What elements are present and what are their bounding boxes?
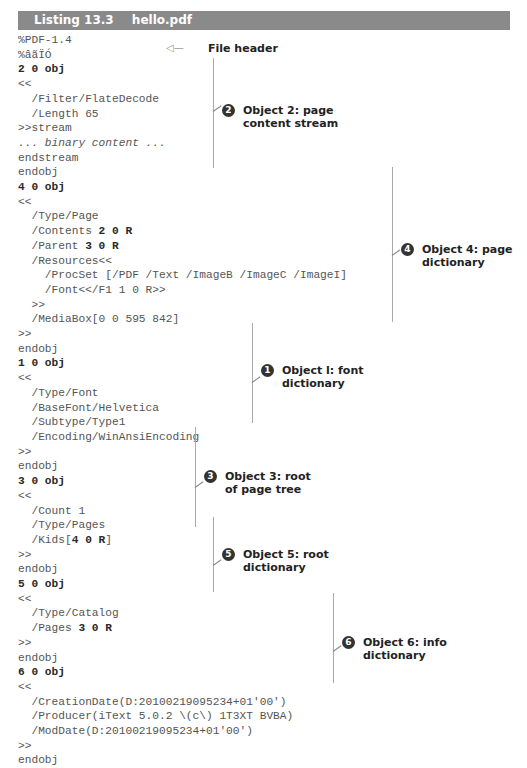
listing-filename: hello.pdf	[132, 13, 192, 27]
code-line: %âãÏÓ	[18, 49, 52, 61]
listing-header: Listing 13.3 hello.pdf	[18, 11, 510, 30]
code-line: 2 0 obj	[18, 63, 65, 75]
code-reference: 4 0 R	[72, 534, 106, 546]
code-line: /BaseFont/Helvetica	[18, 402, 159, 414]
number-badge-1: 1	[261, 364, 274, 377]
code-line: endobj	[18, 652, 58, 664]
code-line: >>	[18, 740, 31, 752]
code-line: >>	[18, 446, 31, 458]
code-line: endobj	[18, 754, 58, 766]
code-line: /ModDate(D:20100219095234+01'00')	[18, 725, 253, 737]
callout-obj1: 1 Object l: font dictionary	[261, 364, 364, 390]
code-line: 4 0 obj	[18, 181, 65, 193]
code-line: /Filter/FlateDecode	[18, 93, 159, 105]
bracket-line-obj5	[213, 517, 214, 592]
code-line: <<	[18, 196, 31, 208]
code-line: <<	[18, 490, 31, 502]
code-line: /Length 65	[18, 108, 99, 120]
number-badge-2: 2	[222, 104, 235, 117]
callout-obj3: 3 Object 3: root of page tree	[204, 470, 311, 496]
code-line: 6 0 obj	[18, 666, 65, 678]
code-line: /Type/Page	[18, 210, 99, 222]
callout-obj5: 5 Object 5: root dictionary	[222, 548, 329, 574]
bracket-line-obj3	[195, 427, 196, 527]
code-listing: %PDF-1.4 %âãÏÓ 2 0 obj << /Filter/FlateD…	[18, 33, 347, 768]
code-reference: 2 0 R	[99, 225, 133, 237]
code-line: /Kids[	[18, 534, 72, 546]
code-line: 1 0 obj	[18, 357, 65, 369]
code-line: endobj	[18, 166, 58, 178]
bracket-line-obj4	[392, 167, 393, 322]
callout-obj2: 2 Object 2: page content stream	[222, 104, 338, 130]
code-line: endobj	[18, 563, 58, 575]
code-line: endstream	[18, 152, 78, 164]
code-line: <<	[18, 372, 31, 384]
code-line: endobj	[18, 460, 58, 472]
arrow-left-icon: ◁—	[166, 42, 184, 53]
code-line: <<	[18, 681, 31, 693]
number-badge-6: 6	[342, 636, 355, 649]
code-line: /Contents	[18, 225, 99, 237]
code-line: /Parent	[18, 240, 85, 252]
code-line: /Type/Pages	[18, 519, 105, 531]
number-badge-5: 5	[222, 548, 235, 561]
code-tail: ]	[105, 534, 112, 546]
number-badge-4: 4	[401, 243, 414, 256]
code-line: >>	[18, 637, 31, 649]
bracket-line-obj1	[252, 323, 253, 423]
code-reference: 3 0 R	[85, 240, 119, 252]
code-line: <<	[18, 593, 31, 605]
code-line: /Encoding/WinAnsiEncoding	[18, 431, 199, 443]
code-line: /Type/Catalog	[18, 607, 119, 619]
code-line: 3 0 obj	[18, 475, 65, 487]
code-line: /Count 1	[18, 505, 85, 517]
bracket-tick-obj4	[392, 249, 401, 256]
code-line: <<	[18, 78, 31, 90]
number-badge-3: 3	[204, 470, 217, 483]
bracket-line-obj2	[213, 58, 214, 168]
code-reference: 3 0 R	[78, 622, 112, 634]
code-line: /Resources<<	[18, 255, 112, 267]
code-line: %PDF-1.4	[18, 34, 72, 46]
code-line: /Font<</F1 1 0 R>>	[18, 284, 166, 296]
code-line: >>	[18, 328, 31, 340]
code-line: ... binary content ...	[18, 137, 166, 149]
code-line: >>	[18, 299, 45, 311]
bracket-line-obj6	[333, 593, 334, 683]
code-line: /ProcSet [/PDF /Text /ImageB /ImageC /Im…	[18, 269, 347, 281]
code-line: /MediaBox[0 0 595 842]	[18, 313, 179, 325]
callout-obj4: 4 Object 4: page dictionary	[401, 243, 513, 269]
code-line: endobj	[18, 343, 58, 355]
code-line: /Pages	[18, 622, 78, 634]
code-line: /Type/Font	[18, 387, 99, 399]
file-header-label: File header	[208, 42, 278, 55]
callout-obj6: 6 Object 6: info dictionary	[342, 636, 447, 662]
code-line: /Subtype/Type1	[18, 416, 125, 428]
code-line: /Producer(iText 5.0.2 \(c\) 1T3XT BVBA)	[18, 710, 293, 722]
listing-label: Listing 13.3	[34, 13, 114, 27]
code-line: /CreationDate(D:20100219095234+01'00')	[18, 696, 287, 708]
code-line: >>	[18, 549, 31, 561]
code-line: >>stream	[18, 122, 72, 134]
code-line: 5 0 obj	[18, 578, 65, 590]
